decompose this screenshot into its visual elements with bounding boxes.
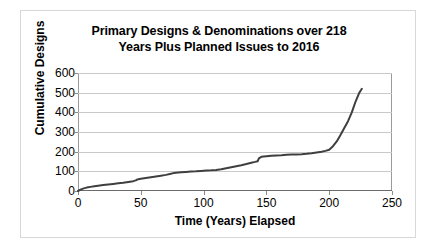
- y-tick-label-400: 400: [41, 106, 75, 118]
- chart-title-line-2: Years Plus Planned Issues to 2016: [21, 39, 417, 55]
- x-tick-50: [141, 191, 142, 195]
- series-cumulative-designs: [78, 89, 362, 191]
- series-line-chart: [78, 73, 392, 191]
- x-tick-label-50: 50: [121, 197, 161, 209]
- x-tick-150: [266, 191, 267, 195]
- x-tick-label-0: 0: [58, 197, 98, 209]
- y-tick-label-600: 600: [41, 67, 75, 79]
- y-tick-label-100: 100: [41, 165, 75, 177]
- x-tick-label-100: 100: [184, 197, 224, 209]
- y-tick-label-500: 500: [41, 87, 75, 99]
- y-tick-label-0: 0: [41, 185, 75, 197]
- y-tick-label-200: 200: [41, 146, 75, 158]
- chart-title: Primary Designs & Denominations over 218…: [21, 23, 417, 55]
- y-tick-label-300: 300: [41, 126, 75, 138]
- plot-area: [78, 73, 392, 191]
- y-axis-tick-labels: 0100200300400500600: [35, 73, 75, 191]
- x-tick-100: [204, 191, 205, 195]
- chart-title-line-1: Primary Designs & Denominations over 218: [21, 23, 417, 39]
- x-tick-250: [392, 191, 393, 195]
- x-tick-label-150: 150: [246, 197, 286, 209]
- x-axis-title: Time (Years) Elapsed: [78, 214, 392, 228]
- x-tick-200: [329, 191, 330, 195]
- x-tick-label-250: 250: [372, 197, 412, 209]
- x-tick-label-200: 200: [309, 197, 349, 209]
- x-axis-tick-labels: 050100150200250: [78, 197, 392, 211]
- chart-frame: Primary Designs & Denominations over 218…: [20, 10, 416, 238]
